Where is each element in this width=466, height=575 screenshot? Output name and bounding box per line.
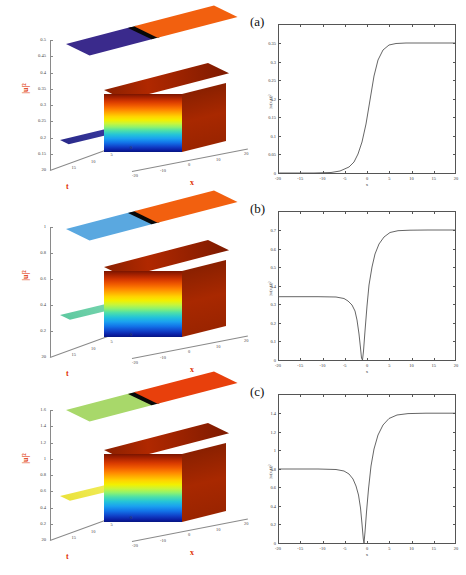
line-plot-y-tick-mark — [278, 341, 281, 342]
line-plot-curve-c — [278, 394, 456, 544]
line-plot-y-tick-mark-right — [453, 117, 456, 118]
surface-x-axis-line-b — [132, 335, 248, 358]
line-plot-x-tick-label: -5 — [336, 176, 354, 181]
line-plot-x-tick-mark — [278, 541, 279, 544]
line-plot-y-tick-mark-right — [453, 154, 456, 155]
surface-z-tick-label: 1.6 — [40, 407, 46, 412]
line-plot-y-tick-mark-right — [453, 323, 456, 324]
line-plot-x-tick-mark-top — [323, 211, 324, 214]
line-plot-x-tick-mark — [323, 541, 324, 544]
line-plot-y-tick-mark — [278, 267, 281, 268]
surface-side-face-c — [182, 443, 226, 522]
line-plot-x-tick-label: 10 — [403, 176, 421, 181]
surface-t-tick-label: 0 — [130, 145, 132, 150]
surface-x-tick-label: 20 — [244, 151, 248, 156]
surface-z-tick-label: 0.8 — [40, 250, 46, 255]
surface-t-tick-label: 15 — [72, 352, 76, 357]
line-plot-x-tick-mark-top — [278, 394, 279, 397]
surface-x-axis-line-c — [132, 518, 248, 541]
line-plot-y-tick-label: 1.4 — [258, 411, 276, 416]
line-plot-x-tick-mark — [455, 171, 456, 174]
surface-x-tick-label: 10 — [216, 527, 220, 532]
surface-top-projection-plane-b — [66, 191, 238, 241]
line-plot-x-tick-label: 0 — [358, 363, 376, 368]
line-plot-x-tick-label: 5 — [380, 176, 398, 181]
line-plot-x-tick-mark-top — [345, 24, 346, 27]
surface-x-tick-label: -10 — [160, 538, 166, 543]
panel-letter-b: (b) — [250, 201, 265, 217]
surface-plot-b: |u|² 10.80.60.40.220 t x 151050-20-10010… — [14, 209, 252, 379]
panel-letter-c: (c) — [250, 384, 264, 400]
surface-t-origin-label: 20 — [41, 537, 46, 542]
panel-b: (b) |u|² 10.80.60.40.220 t x 151050-20-1… — [0, 195, 466, 380]
line-plot-x-tick-mark — [389, 171, 390, 174]
surface-z-tick-label: 1.2 — [40, 440, 46, 445]
line-plot-y-tick-mark — [278, 304, 281, 305]
line-plot-y-tick-mark-right — [453, 506, 456, 507]
surface-top-projection-plane-a — [66, 6, 238, 56]
line-plot-y-tick-mark-right — [453, 341, 456, 342]
surface-x-tick-label: 0 — [188, 349, 190, 354]
surface-z-ticks-c: 1.61.41.210.80.60.40.220 — [14, 392, 48, 542]
surface-z-tick-label: 0.6 — [40, 489, 46, 494]
surface-z-tick-label: 0.5 — [40, 37, 46, 42]
line-plot-x-tick-mark-top — [278, 24, 279, 27]
line-plot-a: 0.350.30.250.20.150.10.050 -20-15-10-505… — [278, 24, 456, 174]
surface-x-tick-label: 10 — [216, 157, 220, 162]
line-plot-x-tick-mark — [412, 358, 413, 361]
top-plane-right-region-b — [134, 191, 237, 223]
surface-x-tick-label: 0 — [188, 162, 190, 167]
line-plot-y-tick-label: 0.1 — [258, 133, 276, 138]
line-plot-x-tick-label: 0 — [358, 176, 376, 181]
line-plot-curve-a — [278, 24, 456, 174]
line-plot-y-axis-name-a: |u(x,t)|² — [268, 82, 273, 122]
line-plot-y-tick-mark-right — [453, 267, 456, 268]
line-plot-x-axis-name-a: x — [278, 182, 456, 187]
line-plot-y-tick-mark-right — [453, 286, 456, 287]
line-plot-y-tick-mark — [278, 99, 281, 100]
line-plot-x-tick-label: 10 — [403, 363, 421, 368]
surface-plot-c: |u|² 1.61.41.210.80.60.40.220 t x 151050… — [14, 392, 252, 562]
surface-z-tick-label: 1 — [44, 224, 46, 229]
surface-t-tick-label: 0 — [130, 332, 132, 337]
surface-z-tick-mark — [50, 279, 53, 280]
line-plot-y-tick-label: 0.6 — [258, 246, 276, 251]
surface-t-tick-label: 15 — [72, 535, 76, 540]
line-plot-y-tick-mark — [278, 80, 281, 81]
line-plot-x-tick-mark — [323, 358, 324, 361]
line-plot-y-tick-mark-right — [453, 469, 456, 470]
surface-t-tick-label: 15 — [72, 165, 76, 170]
surface-z-tick-mark — [50, 73, 53, 74]
line-plot-x-tick-mark-top — [412, 24, 413, 27]
surface-z-tick-label: 0.4 — [40, 70, 46, 75]
line-plot-y-tick-mark-right — [453, 43, 456, 44]
surface-z-tick-label: 1 — [44, 456, 46, 461]
line-plot-y-tick-mark — [278, 136, 281, 137]
line-plot-x-tick-mark-top — [323, 24, 324, 27]
surface-z-tick-mark — [50, 443, 53, 444]
line-plot-y-tick-mark-right — [453, 487, 456, 488]
line-plot-y-tick-mark-right — [453, 249, 456, 250]
surface-x-tick-label: 10 — [216, 344, 220, 349]
line-plot-x-tick-mark — [434, 541, 435, 544]
line-plot-x-tick-mark-top — [389, 24, 390, 27]
surface-front-face-a — [104, 94, 182, 152]
line-plot-x-tick-label: -15 — [291, 176, 309, 181]
line-plot-x-tick-label: -5 — [336, 363, 354, 368]
line-plot-x-axis-name-b: x — [278, 369, 456, 374]
line-plot-x-tick-mark-top — [434, 394, 435, 397]
line-plot-y-tick-mark — [278, 524, 281, 525]
line-plot-y-tick-mark-right — [453, 450, 456, 451]
line-plot-x-tick-mark-top — [434, 24, 435, 27]
line-plot-x-tick-mark — [300, 358, 301, 361]
surface-t-axis-label-a: t — [66, 182, 69, 191]
surface-z-tick-label: 0.15 — [38, 151, 46, 156]
surface-x-tick-label: 0 — [188, 532, 190, 537]
surface-z-tick-mark — [50, 491, 53, 492]
line-plot-x-tick-mark — [412, 171, 413, 174]
line-plot-x-tick-label: 5 — [380, 546, 398, 551]
line-plot-x-tick-mark-top — [412, 211, 413, 214]
surface-x-tick-label: -10 — [160, 355, 166, 360]
panel-c: (c) |u|² 1.61.41.210.80.60.40.220 t x 15… — [0, 378, 466, 563]
surface-x-axis-label-b: x — [190, 365, 194, 374]
